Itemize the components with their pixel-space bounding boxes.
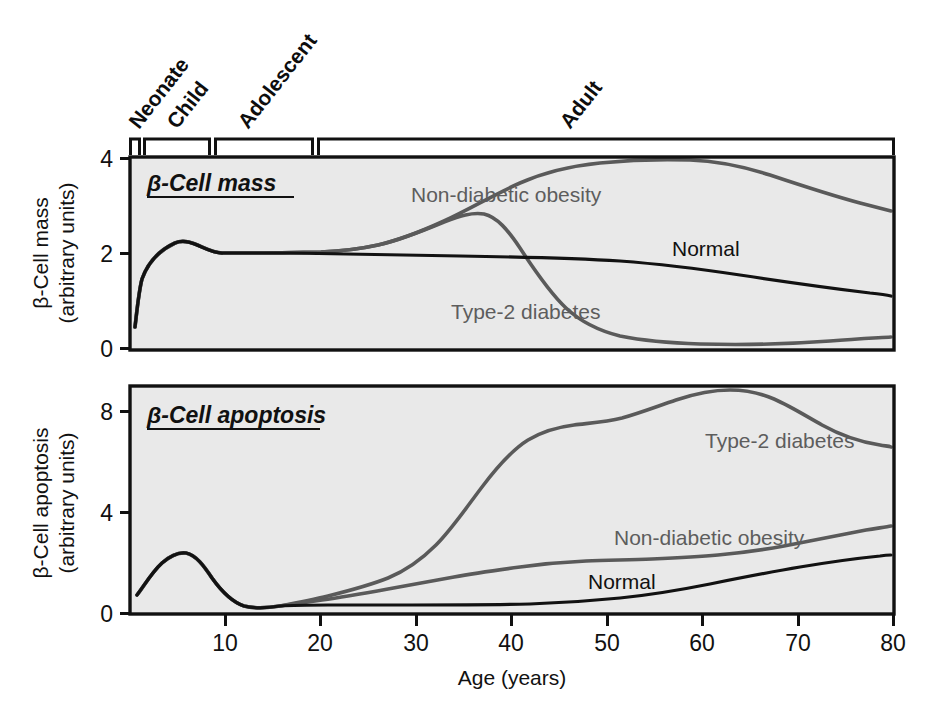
x-ticklabel-20: 20	[307, 630, 333, 656]
x-ticklabel-60: 60	[689, 630, 715, 656]
panel-beta-cell-apoptosis: 8 4 0 β-Cell apoptosis (arbitrary units)…	[29, 386, 894, 627]
apoptosis-label-normal: Normal	[588, 570, 656, 593]
apoptosis-y-axis-title-line2: (arbitrary units)	[55, 432, 78, 573]
mass-y-axis-title-line1: β-Cell mass	[29, 197, 52, 308]
mass-label-non-diabetic-obesity: Non-diabetic obesity	[411, 183, 602, 206]
apoptosis-panel-title: β-Cell apoptosis	[146, 402, 326, 428]
beta-cell-figure: Neonate Child Adolescent Adult 4 2 0 β-C…	[0, 0, 931, 708]
mass-label-normal: Normal	[672, 237, 740, 260]
x-ticklabel-80: 80	[880, 630, 906, 656]
bracket-adult	[319, 139, 894, 155]
mass-panel-title-group: β-Cell mass	[146, 170, 294, 197]
apoptosis-y-axis: 8 4 0	[100, 399, 130, 627]
x-ticklabel-50: 50	[594, 630, 620, 656]
mass-y-ticklabel-4: 4	[100, 146, 113, 172]
x-ticklabel-30: 30	[403, 630, 429, 656]
x-axis: 10 20 30 40 50 60 70 80 Age (years)	[212, 614, 906, 689]
stage-label-adult: Adult	[555, 76, 606, 132]
bracket-child	[145, 139, 210, 155]
x-axis-title: Age (years)	[458, 666, 567, 689]
apoptosis-y-axis-title: β-Cell apoptosis (arbitrary units)	[29, 428, 78, 579]
mass-y-axis-title-line2: (arbitrary units)	[55, 182, 78, 323]
panel-beta-cell-mass: 4 2 0 β-Cell mass (arbitrary units) β-Ce…	[29, 146, 894, 362]
mass-y-ticklabel-2: 2	[100, 241, 113, 267]
mass-y-ticklabel-0: 0	[100, 336, 113, 362]
x-ticklabel-40: 40	[498, 630, 524, 656]
apoptosis-label-non-diabetic-obesity: Non-diabetic obesity	[614, 526, 805, 549]
apoptosis-panel-title-group: β-Cell apoptosis	[146, 402, 326, 429]
x-ticklabel-70: 70	[785, 630, 811, 656]
mass-y-axis-title: β-Cell mass (arbitrary units)	[29, 182, 78, 323]
apoptosis-label-type-2-diabetes: Type-2 diabetes	[705, 429, 854, 452]
apoptosis-y-ticklabel-0: 0	[100, 601, 113, 627]
mass-y-axis: 4 2 0	[100, 146, 130, 362]
apoptosis-y-ticklabel-8: 8	[100, 399, 113, 425]
apoptosis-y-axis-title-line1: β-Cell apoptosis	[29, 428, 52, 579]
stage-label-adolescent: Adolescent	[233, 29, 321, 132]
life-stage-bracket: Neonate Child Adolescent Adult	[124, 29, 893, 155]
bracket-neonate	[131, 139, 140, 155]
mass-panel-title: β-Cell mass	[146, 170, 276, 196]
apoptosis-y-ticklabel-4: 4	[100, 500, 113, 526]
figure-svg: Neonate Child Adolescent Adult 4 2 0 β-C…	[0, 0, 931, 708]
mass-label-type-2-diabetes: Type-2 diabetes	[451, 300, 600, 323]
x-ticklabel-10: 10	[212, 630, 238, 656]
bracket-adolescent	[216, 139, 313, 155]
